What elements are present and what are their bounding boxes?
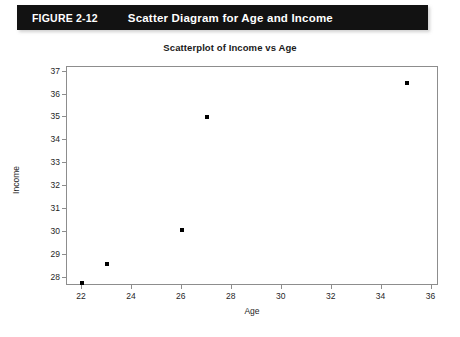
x-tick-label: 30 [261,291,301,301]
data-point [405,81,409,85]
x-tick-label: 36 [411,291,451,301]
x-tick-mark [331,285,332,289]
y-tick-label: 33 [20,157,60,167]
y-tick-mark [62,139,66,140]
scatter-chart: Scatterplot of Income vs Age 28293031323… [0,34,460,337]
x-tick-label: 24 [111,291,151,301]
y-tick-label: 34 [20,134,60,144]
x-tick-mark [181,285,182,289]
y-tick-mark [62,116,66,117]
figure-caption: Scatter Diagram for Age and Income [128,12,333,24]
x-tick-label: 32 [311,291,351,301]
chart-title: Scatterplot of Income vs Age [0,42,460,53]
x-tick-label: 34 [361,291,401,301]
x-tick-mark [81,285,82,289]
y-tick-label: 29 [20,249,60,259]
y-tick-label: 32 [20,180,60,190]
y-tick-label: 28 [20,272,60,282]
y-tick-mark [62,231,66,232]
figure-banner: FIGURE 2-12 Scatter Diagram for Age and … [17,5,428,30]
x-tick-label: 22 [61,291,101,301]
plot-area [66,66,438,285]
y-tick-mark [62,277,66,278]
x-tick-mark [131,285,132,289]
y-tick-label: 36 [20,89,60,99]
data-point [105,262,109,266]
y-tick-label: 35 [20,111,60,121]
data-point [180,228,184,232]
x-tick-mark [281,285,282,289]
figure-number: FIGURE 2-12 [32,12,98,24]
y-tick-label: 31 [20,203,60,213]
y-tick-mark [62,71,66,72]
y-tick-mark [62,185,66,186]
data-point [205,115,209,119]
x-tick-label: 28 [211,291,251,301]
y-tick-mark [62,208,66,209]
x-tick-label: 26 [161,291,201,301]
x-tick-mark [231,285,232,289]
x-axis-title: Age [66,306,438,316]
y-tick-label: 37 [20,66,60,76]
y-tick-mark [62,94,66,95]
data-point [80,281,84,285]
y-tick-label: 30 [20,226,60,236]
y-axis-title: Income [11,166,21,194]
x-tick-mark [381,285,382,289]
y-tick-mark [62,254,66,255]
y-tick-mark [62,162,66,163]
x-tick-mark [431,285,432,289]
